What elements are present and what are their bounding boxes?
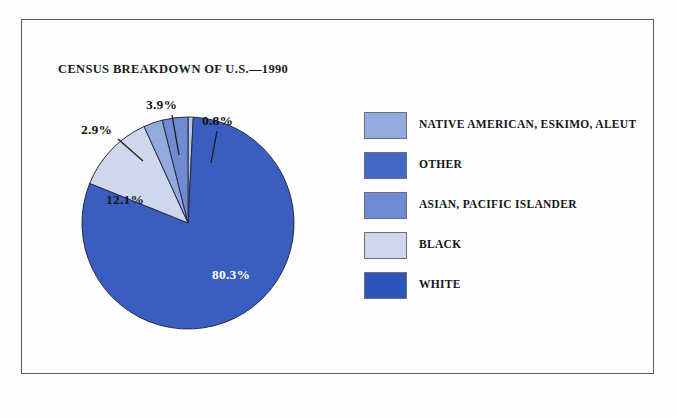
legend-item[interactable]: OTHER <box>364 150 654 190</box>
legend-item-label: WHITE <box>419 278 461 290</box>
legend-item-label: OTHER <box>419 158 462 170</box>
slice-value-label: 80.3% <box>212 267 250 283</box>
slice-value-label: 12.1% <box>106 192 144 208</box>
legend-color-swatch <box>364 152 407 179</box>
legend-item[interactable]: BLACK <box>364 230 654 270</box>
chart-legend: NATIVE AMERICAN, ESKIMO, ALEUTOTHERASIAN… <box>364 110 654 310</box>
legend-item-label: ASIAN, PACIFIC ISLANDER <box>419 198 577 210</box>
legend-item-label: NATIVE AMERICAN, ESKIMO, ALEUT <box>419 118 636 130</box>
slice-value-label: 0.8% <box>202 113 233 129</box>
legend-item[interactable]: NATIVE AMERICAN, ESKIMO, ALEUT <box>364 110 654 150</box>
legend-color-swatch <box>364 192 407 219</box>
figure-canvas: CENSUS BREAKDOWN OF U.S.—1990 0.8%80.3%1… <box>0 0 677 417</box>
slice-value-label: 3.9% <box>146 97 177 113</box>
legend-item[interactable]: ASIAN, PACIFIC ISLANDER <box>364 190 654 230</box>
slice-value-label: 2.9% <box>81 122 112 138</box>
legend-item-label: BLACK <box>419 238 461 250</box>
pie-chart-area: 0.8%80.3%12.1%2.9%3.9% <box>30 75 350 345</box>
pie-chart-svg <box>30 75 350 345</box>
legend-color-swatch <box>364 272 407 299</box>
legend-item[interactable]: WHITE <box>364 270 654 310</box>
legend-color-swatch <box>364 232 407 259</box>
legend-color-swatch <box>364 112 407 139</box>
